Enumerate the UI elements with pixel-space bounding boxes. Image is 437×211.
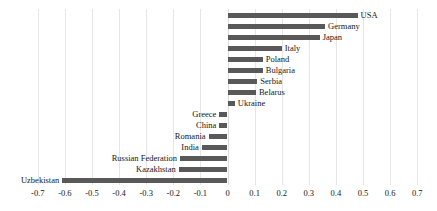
x-tick-label: -0.7: [31, 188, 44, 199]
bar-label: Japan: [323, 32, 342, 42]
bar-row: Poland: [0, 55, 437, 66]
bar-label: Romania: [175, 131, 206, 141]
bar: [228, 13, 358, 18]
bar-label: Serbia: [260, 76, 282, 86]
bar: [228, 46, 282, 51]
x-tick-label: 0.2: [276, 188, 287, 199]
x-tick-label: -0.2: [167, 188, 180, 199]
bar: [179, 167, 228, 172]
bar-label: Italy: [285, 43, 301, 53]
x-tick-label: 0.7: [412, 188, 423, 199]
bar-row: China: [0, 121, 437, 132]
bar: [62, 178, 227, 183]
bar-row: Kazakhstan: [0, 165, 437, 176]
bar: [228, 79, 258, 84]
bar-label: India: [181, 142, 198, 152]
x-tick-label: -0.5: [85, 188, 98, 199]
bar-label: USA: [361, 10, 378, 20]
plot-area: USAGermanyJapanItalyPolandBulgariaSerbia…: [0, 9, 437, 185]
bar-label: Germany: [328, 21, 360, 31]
x-tick-label: 0.1: [249, 188, 260, 199]
bar-label: Ukraine: [238, 98, 265, 108]
bar-row: Ukraine: [0, 99, 437, 110]
x-tick-label: 0.3: [303, 188, 314, 199]
bar-row: India: [0, 143, 437, 154]
bar: [219, 123, 227, 128]
bar-label: China: [196, 120, 216, 130]
bar-row: Japan: [0, 33, 437, 44]
bar: [219, 112, 227, 117]
x-tick-label: 0.5: [358, 188, 369, 199]
x-tick-label: -0.3: [139, 188, 152, 199]
bar-row: Belarus: [0, 88, 437, 99]
bar-row: Germany: [0, 22, 437, 33]
x-tick-label: -0.6: [58, 188, 71, 199]
bar-row: Serbia: [0, 77, 437, 88]
bar-label: Greece: [192, 109, 216, 119]
bar-row: USA: [0, 11, 437, 22]
bar-row: Russian Federation: [0, 154, 437, 165]
bar-row: Italy: [0, 44, 437, 55]
bar: [202, 145, 228, 150]
bar-label: Belarus: [259, 87, 285, 97]
x-tick-label: 0: [225, 188, 229, 199]
bar: [228, 68, 263, 73]
bar-row: Romania: [0, 132, 437, 143]
bar-label: Uzbekistan: [21, 175, 59, 185]
bar: [228, 57, 263, 62]
bar-label: Kazakhstan: [136, 164, 176, 174]
bar-label: Russian Federation: [112, 153, 177, 163]
bar-row: Greece: [0, 110, 437, 121]
x-tick-label: 0.4: [331, 188, 342, 199]
x-tick-label: -0.4: [112, 188, 125, 199]
bar: [228, 101, 235, 106]
x-axis: -0.7-0.6-0.5-0.4-0.3-0.2-0.100.10.20.30.…: [0, 186, 437, 211]
bar-chart: USAGermanyJapanItalyPolandBulgariaSerbia…: [0, 0, 437, 211]
bar: [180, 156, 227, 161]
bar-row: Bulgaria: [0, 66, 437, 77]
x-tick-label: -0.1: [194, 188, 207, 199]
x-tick-label: 0.6: [385, 188, 396, 199]
bar-label: Poland: [266, 54, 290, 64]
bar-label: Bulgaria: [266, 65, 295, 75]
bar: [228, 35, 320, 40]
bar: [209, 134, 228, 139]
bar: [228, 90, 256, 95]
bar: [228, 24, 326, 29]
